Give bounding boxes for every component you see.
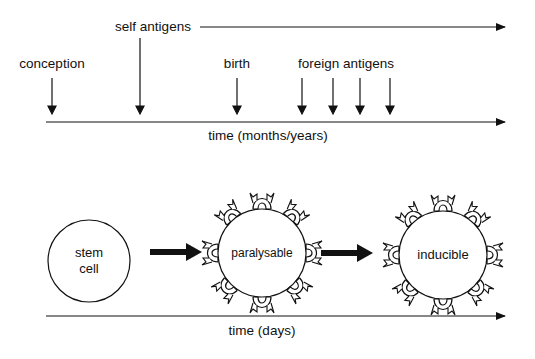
stem-cell-label-line2: cell bbox=[75, 261, 103, 277]
time-axis-days-label: time (days) bbox=[229, 324, 296, 338]
transition-arrow-2 bbox=[321, 244, 373, 262]
diagram-canvas bbox=[0, 0, 535, 359]
birth-label: birth bbox=[224, 57, 250, 71]
time-axis-months-years-label: time (months/years) bbox=[208, 129, 327, 143]
self-antigens-label: self antigens bbox=[115, 20, 191, 34]
conception-label: conception bbox=[19, 57, 84, 71]
inducible-label: inducible bbox=[417, 247, 468, 263]
transition-arrow-1 bbox=[150, 243, 202, 261]
event-arrows bbox=[48, 38, 394, 114]
paralysable-label: paralysable bbox=[231, 246, 292, 260]
stem-cell-label: stem cell bbox=[75, 245, 103, 276]
foreign-antigens-label: foreign antigens bbox=[298, 57, 394, 71]
stem-cell-label-line1: stem bbox=[75, 245, 103, 261]
